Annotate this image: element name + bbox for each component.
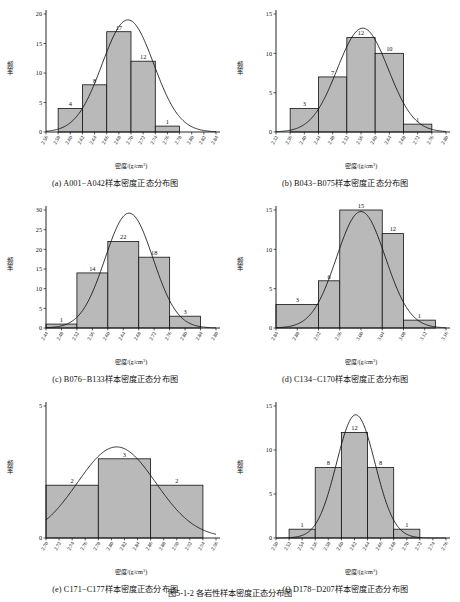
bar	[139, 257, 170, 328]
x-tick-label: 2.44	[312, 134, 322, 145]
y-tick-label: 5	[269, 89, 272, 96]
x-tick-label: 2.58	[322, 540, 332, 551]
y-ticks-f: 051015	[266, 402, 276, 541]
bar-value-label: 10	[386, 45, 392, 52]
chart-caption-c: (c) B076−B133样本密度正态分布图	[0, 372, 230, 384]
y-tick-label: 10	[266, 446, 272, 453]
x-tick-label: 3.00	[354, 330, 364, 341]
x-tick-label: 2.84	[209, 134, 219, 145]
x-tick-label: 2.68	[112, 134, 122, 145]
bars-f	[289, 432, 420, 538]
bar	[98, 459, 150, 538]
bar	[155, 126, 179, 132]
x-tick-label: 2.74	[66, 540, 76, 551]
bar	[347, 38, 375, 132]
x-tick-label: 2.50	[269, 540, 279, 551]
x-ticks-a: 2.562.582.602.622.642.662.682.702.722.74…	[39, 132, 219, 145]
x-tick-label: 2.70	[400, 540, 410, 551]
x-tick-label: 2.52	[70, 330, 80, 341]
x-tick-label: 2.80	[105, 540, 115, 551]
x-tick-label: 2.68	[132, 330, 142, 341]
x-tick-label: 2.62	[76, 134, 86, 145]
x-tick-label: 2.60	[335, 540, 345, 551]
x-tick-label: 2.84	[269, 330, 279, 341]
x-tick-label: 2.48	[326, 134, 336, 145]
x-tick-label: 2.70	[124, 134, 134, 145]
plot-a: 48171212.562.582.602.622.642.662.682.702…	[0, 0, 230, 178]
y-axis-title: 频率	[237, 60, 244, 76]
bar-value-label: 12	[351, 424, 357, 431]
chart-caption-d: (d) C134−C170样本密度正态分布图	[230, 372, 460, 384]
bar-value-label: 8	[379, 459, 382, 466]
y-axis-title: 频率	[7, 60, 14, 76]
x-tick-label: 2.80	[178, 330, 188, 341]
x-axis-title: 密度/(g/cm3)	[115, 568, 147, 576]
x-tick-label: 2.76	[439, 540, 449, 551]
x-ticks-c: 2.442.482.522.562.602.642.682.722.762.80…	[39, 328, 219, 341]
x-tick-label: 2.56	[354, 134, 364, 145]
x-tick-label: 2.72	[137, 134, 147, 145]
y-tick-label: 10	[266, 246, 272, 253]
x-tick-label: 2.88	[157, 540, 167, 551]
bar	[382, 234, 403, 328]
x-tick-label: 2.32	[269, 134, 279, 145]
y-ticks-b: 051015	[266, 10, 276, 135]
figure-bottom-caption: 图5-1-2 各岩性样本密度正态分布图	[0, 586, 460, 602]
bar-value-label: 1	[418, 312, 421, 319]
x-tick-label: 2.64	[383, 134, 393, 145]
bar-value-label: 1	[166, 118, 169, 125]
x-ticks-b: 2.322.362.402.442.482.522.562.602.642.68…	[269, 132, 449, 145]
x-tick-label: 2.72	[411, 134, 421, 145]
bar-value-label: 3	[303, 100, 306, 107]
x-tick-label: 2.64	[117, 330, 127, 341]
bar	[108, 241, 139, 328]
x-tick-label: 2.70	[39, 540, 49, 551]
chart-panel-e: 2322.702.722.742.762.782.802.822.842.862…	[0, 392, 230, 602]
y-ticks-c: 051015202530	[36, 206, 46, 331]
x-tick-label: 2.66	[374, 540, 384, 551]
y-tick-label: 15	[266, 402, 272, 409]
bar-value-label: 3	[296, 296, 299, 303]
bar	[107, 32, 131, 132]
x-tick-label: 2.60	[369, 134, 379, 145]
x-axis-title: 密度/(g/cm3)	[345, 358, 377, 366]
chart-svg-e: 2322.702.722.742.762.782.802.822.842.862…	[0, 392, 230, 584]
bar-value-label: 4	[69, 100, 73, 107]
bar	[375, 53, 403, 132]
y-tick-label: 15	[36, 40, 42, 47]
x-tick-label: 2.74	[426, 540, 436, 551]
x-tick-label: 2.92	[312, 330, 322, 341]
y-tick-label: 0	[269, 128, 272, 135]
bars-c	[46, 241, 201, 328]
x-tick-label: 3.12	[418, 330, 428, 341]
x-tick-label: 2.76	[79, 540, 89, 551]
y-tick-label: 20	[36, 246, 42, 253]
bar	[290, 108, 318, 132]
x-tick-label: 2.72	[148, 330, 158, 341]
y-tick-label: 10	[36, 285, 42, 292]
x-tick-label: 3.04	[376, 330, 386, 341]
x-tick-label: 2.78	[173, 134, 183, 145]
y-axis-title: 频率	[237, 459, 244, 475]
x-tick-label: 2.68	[387, 540, 397, 551]
chart-svg-a: 48171212.562.582.602.622.642.662.682.702…	[0, 0, 230, 178]
x-tick-label: 2.84	[131, 540, 141, 551]
bar-value-label: 2	[71, 477, 74, 484]
y-tick-label: 5	[269, 490, 272, 497]
y-tick-label: 0	[269, 534, 272, 541]
chart-caption-a: (a) A001−A042样本密度正态分布图	[0, 176, 230, 188]
x-tick-label: 2.64	[88, 134, 98, 145]
chart-svg-c: 114221832.442.482.522.562.602.642.682.72…	[0, 196, 230, 374]
x-tick-label: 2.96	[333, 330, 343, 341]
x-ticks-e: 2.702.722.742.762.782.802.822.842.862.88…	[39, 538, 219, 551]
x-tick-label: 2.76	[163, 330, 173, 341]
bar-value-label: 2	[175, 477, 178, 484]
y-tick-label: 5	[269, 285, 272, 292]
bar	[82, 85, 106, 132]
y-tick-label: 15	[36, 265, 42, 272]
bars-e	[46, 459, 203, 538]
x-tick-label: 2.66	[100, 134, 110, 145]
plot-b: 37121012.322.362.402.442.482.522.562.602…	[230, 0, 460, 178]
bar-value-label: 12	[140, 53, 146, 60]
x-tick-label: 2.62	[348, 540, 358, 551]
